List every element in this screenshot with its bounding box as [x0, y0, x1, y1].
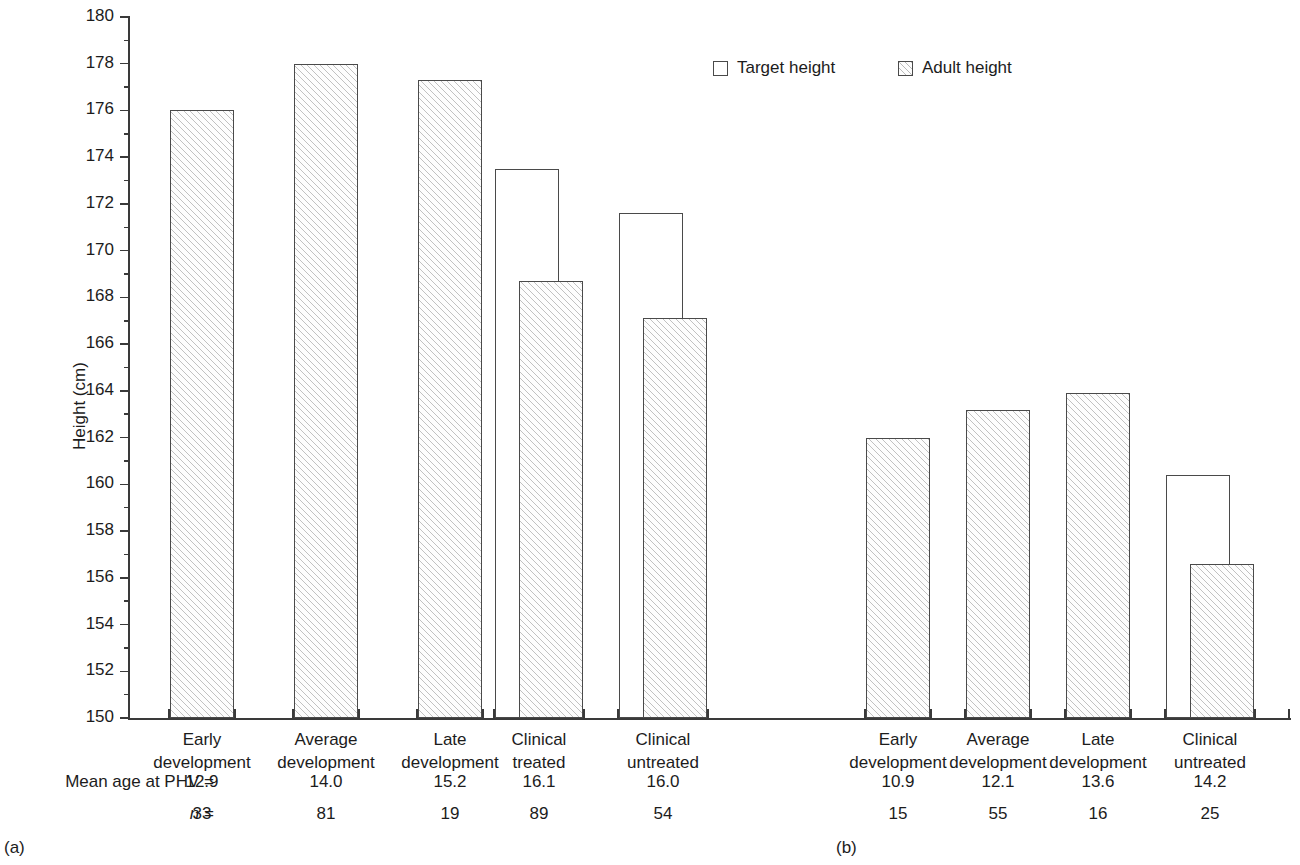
category-label: Clinicaltreated [469, 728, 609, 774]
mean-age-phv-value: 12.1 [948, 772, 1048, 792]
y-tick-minor [124, 133, 130, 135]
y-tick-major [120, 390, 130, 392]
y-tick-label: 156 [50, 567, 114, 587]
bar-adult-height[interactable] [170, 110, 234, 718]
legend-item-target[interactable]: Target height [713, 58, 835, 78]
bar-adult-height[interactable] [866, 438, 930, 718]
y-tick-major [120, 250, 130, 252]
legend-swatch-adult-height [898, 61, 913, 76]
row-label-n-symbol: n [190, 804, 199, 823]
y-tick-label: 150 [50, 707, 114, 727]
row-label-mean-age-equals: = [204, 772, 214, 791]
legend-label-adult-height: Adult height [922, 58, 1012, 78]
y-tick-label: 166 [50, 333, 114, 353]
bar-adult-height[interactable] [418, 80, 482, 718]
legend-label-target-height: Target height [737, 58, 835, 78]
row-label-mean-age-text: Mean age at PHV [65, 772, 199, 791]
category-label-line2: untreated [593, 751, 733, 774]
mean-age-phv-value: 14.2 [1160, 772, 1260, 792]
bar-adult-height[interactable] [519, 281, 583, 718]
y-tick-major [120, 577, 130, 579]
sample-size-value: 54 [613, 804, 713, 824]
y-tick-label: 170 [50, 240, 114, 260]
y-tick-minor [124, 273, 130, 275]
y-tick-major [120, 343, 130, 345]
category-label-line1: Early [132, 728, 272, 751]
y-tick-minor [124, 367, 130, 369]
x-tick [583, 709, 585, 718]
category-label: Earlydevelopment [132, 728, 272, 774]
y-tick-major [120, 297, 130, 299]
row-label-n: n = [8, 804, 214, 824]
sample-size-value: 25 [1160, 804, 1260, 824]
y-tick-major [120, 530, 130, 532]
y-tick-minor [124, 507, 130, 509]
legend-swatch-target-height [713, 61, 728, 76]
y-tick-minor [124, 180, 130, 182]
y-tick-major [120, 624, 130, 626]
y-tick-label: 154 [50, 614, 114, 634]
bar-adult-height[interactable] [966, 410, 1030, 718]
x-tick [358, 709, 360, 718]
y-tick-minor [124, 554, 130, 556]
y-tick-label: 180 [50, 6, 114, 26]
y-tick-minor [124, 40, 130, 42]
y-tick-major [120, 110, 130, 112]
y-tick-label: 168 [50, 286, 114, 306]
y-tick-minor [124, 694, 130, 696]
y-tick-major [120, 156, 130, 158]
mean-age-phv-value: 15.2 [400, 772, 500, 792]
y-tick-label: 172 [50, 193, 114, 213]
y-tick-label: 158 [50, 520, 114, 540]
category-label-line2: development [132, 751, 272, 774]
category-label-line1: Clinical [1140, 728, 1280, 751]
x-tick [1130, 709, 1132, 718]
sample-size-value: 89 [489, 804, 589, 824]
y-tick-minor [124, 413, 130, 415]
sample-size-value: 55 [948, 804, 1048, 824]
category-label-line1: Average [256, 728, 396, 751]
mean-age-phv-value: 10.9 [848, 772, 948, 792]
mean-age-phv-value: 16.0 [613, 772, 713, 792]
category-label: Clinicaluntreated [1140, 728, 1280, 774]
sample-size-value: 15 [848, 804, 948, 824]
category-label-line1: Clinical [593, 728, 733, 751]
sample-size-value: 16 [1048, 804, 1148, 824]
y-tick-minor [124, 600, 130, 602]
category-label: Clinicaluntreated [593, 728, 733, 774]
y-tick-major [120, 717, 130, 719]
x-tick [1254, 709, 1256, 718]
y-tick-minor [124, 227, 130, 229]
bar-adult-height[interactable] [294, 64, 358, 718]
y-tick-label: 176 [50, 99, 114, 119]
y-tick-major [120, 437, 130, 439]
y-tick-label: 178 [50, 53, 114, 73]
y-tick-major [120, 671, 130, 673]
category-label-line2: development [256, 751, 396, 774]
x-tick [707, 709, 709, 718]
category-label-line2: untreated [1140, 751, 1280, 774]
x-tick [482, 709, 484, 718]
panel-tag-a: (a) [4, 838, 25, 858]
bar-adult-height[interactable] [643, 318, 707, 718]
x-tick [1030, 709, 1032, 718]
bar-adult-height[interactable] [1190, 564, 1254, 718]
panel-tag-b: (b) [836, 838, 857, 858]
category-label: Averagedevelopment [256, 728, 396, 774]
y-tick-major [120, 484, 130, 486]
y-tick-label: 174 [50, 146, 114, 166]
y-tick-major [120, 16, 130, 18]
category-label-line1: Clinical [469, 728, 609, 751]
y-tick-minor [124, 86, 130, 88]
figure-canvas: Height (cm) 1801781761741721701681661641… [0, 0, 1300, 865]
y-tick-label: 160 [50, 473, 114, 493]
y-tick-label: 162 [50, 427, 114, 447]
x-tick [234, 709, 236, 718]
y-tick-label: 152 [50, 660, 114, 680]
legend-item-adult[interactable]: Adult height [898, 58, 1012, 78]
mean-age-phv-value: 16.1 [489, 772, 589, 792]
category-label-line2: treated [469, 751, 609, 774]
bar-adult-height[interactable] [1066, 393, 1130, 718]
y-tick-minor [124, 460, 130, 462]
row-label-n-equals: = [204, 804, 214, 823]
